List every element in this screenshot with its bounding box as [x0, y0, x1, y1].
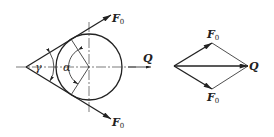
- top-force-vector: [174, 43, 212, 66]
- parallelogram-top-edge: [212, 43, 248, 66]
- lower-tangent-force-line: [26, 67, 111, 119]
- force-parallelogram: F0 F0 Q: [174, 28, 259, 105]
- bottom-force-vector: [174, 66, 212, 89]
- pulley-wedge-figure: γ α F0 F0 Q: [16, 12, 153, 130]
- alpha-label: α: [63, 61, 71, 74]
- gamma-label: γ: [35, 61, 42, 74]
- upper-force-label: F0: [111, 12, 124, 26]
- top-force-label: F0: [206, 28, 219, 42]
- bottom-force-label: F0: [206, 91, 219, 105]
- parallelogram-bottom-edge: [212, 66, 248, 89]
- lower-force-label: F0: [111, 116, 124, 130]
- resultant-q-label: Q: [143, 52, 153, 65]
- right-resultant-label: Q: [249, 60, 259, 73]
- force-diagram: γ α F0 F0 Q F0 F0 Q: [0, 0, 274, 137]
- upper-tangent-force-line: [26, 15, 111, 67]
